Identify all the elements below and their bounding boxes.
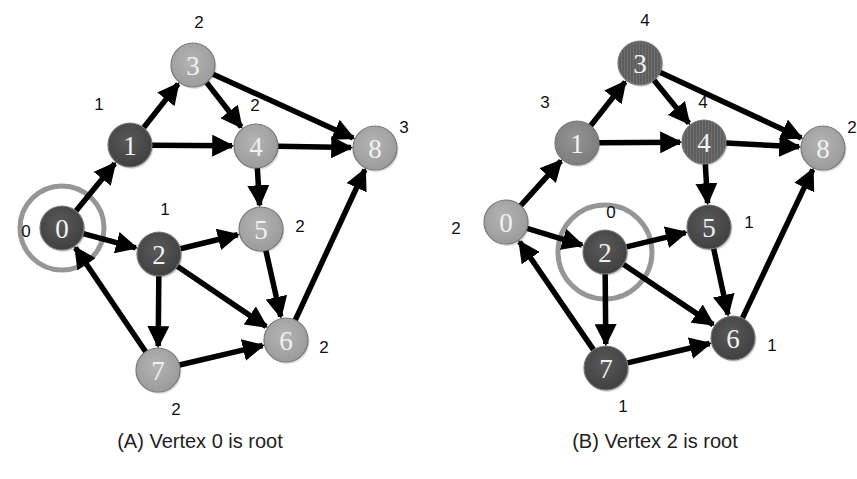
vertex-id-label: 8 xyxy=(368,134,382,164)
vertex-id-label: 2 xyxy=(152,240,166,270)
vertex-id-label: 8 xyxy=(816,134,830,164)
vertex-5: 5 xyxy=(687,205,733,251)
vertex-id-label: 7 xyxy=(599,354,613,384)
vertex-2: 2 xyxy=(583,230,629,276)
edge-7-to-6 xyxy=(179,345,262,365)
graph-caption: (A) Vertex 0 is root xyxy=(117,430,283,452)
edge-3-to-4 xyxy=(207,82,242,127)
vertex-8: 8 xyxy=(353,126,399,172)
depth-label: 2 xyxy=(319,338,328,357)
edge-2-to-6 xyxy=(177,266,266,326)
vertex-id-label: 5 xyxy=(254,215,268,245)
depth-label: 1 xyxy=(744,213,753,232)
vertex-4: 4 xyxy=(682,120,728,166)
edge-5-to-6 xyxy=(714,249,728,315)
vertex-id-label: 3 xyxy=(633,49,647,79)
depth-label: 2 xyxy=(250,96,259,115)
vertex-5: 5 xyxy=(239,207,285,253)
edge-4-to-8 xyxy=(278,146,351,147)
edge-4-to-5 xyxy=(705,164,707,203)
edge-6-to-8 xyxy=(295,170,365,320)
vertex-6: 6 xyxy=(264,318,310,364)
edge-7-to-6 xyxy=(627,344,709,363)
depth-label: 1 xyxy=(160,200,169,219)
vertex-1: 1 xyxy=(555,121,601,167)
edge-3-to-8 xyxy=(213,74,353,138)
graph-vertex-2-root: 021320344451617182(B) Vertex 2 is root xyxy=(451,11,856,453)
depth-label: 4 xyxy=(640,11,649,30)
vertex-3: 3 xyxy=(618,41,664,87)
edge-0-to-2 xyxy=(527,228,582,245)
edge-4-to-8 xyxy=(726,143,799,147)
depth-label: 1 xyxy=(767,336,776,355)
depth-label: 2 xyxy=(194,13,203,32)
edge-2-to-7 xyxy=(605,274,606,344)
vertex-id-label: 6 xyxy=(726,324,740,354)
edge-1-to-4 xyxy=(152,145,232,146)
vertex-id-label: 4 xyxy=(249,132,263,162)
vertex-1: 1 xyxy=(108,123,154,169)
depth-label: 0 xyxy=(21,222,30,241)
edge-3-to-8 xyxy=(660,72,801,138)
edge-7-to-0 xyxy=(75,248,145,352)
depth-label: 3 xyxy=(540,93,549,112)
depth-label: 2 xyxy=(295,217,304,236)
vertex-3: 3 xyxy=(171,43,217,89)
edge-3-to-4 xyxy=(654,80,689,123)
vertex-id-label: 4 xyxy=(697,128,711,158)
depth-label: 1 xyxy=(618,397,627,416)
vertex-4: 4 xyxy=(234,124,280,170)
depth-label: 1 xyxy=(94,95,103,114)
vertex-id-label: 2 xyxy=(598,238,612,268)
vertex-id-label: 1 xyxy=(570,129,584,159)
depth-label: 4 xyxy=(698,93,707,112)
edge-6-to-8 xyxy=(742,170,812,318)
edge-0-to-1 xyxy=(521,161,561,206)
edge-2-to-6 xyxy=(623,264,713,324)
graph-caption: (B) Vertex 2 is root xyxy=(572,430,738,452)
vertex-2: 2 xyxy=(137,232,183,278)
edge-0-to-2 xyxy=(83,234,136,248)
edge-1-to-4 xyxy=(599,142,680,143)
vertex-id-label: 6 xyxy=(279,326,293,356)
depth-label: 0 xyxy=(606,203,615,222)
graph-vertex-0-root: 001121324252627283(A) Vertex 0 is root xyxy=(20,13,409,453)
vertex-id-label: 0 xyxy=(499,208,513,238)
edge-4-to-5 xyxy=(257,168,259,205)
vertex-id-label: 5 xyxy=(702,213,716,243)
depth-label: 2 xyxy=(847,118,856,137)
edge-1-to-3 xyxy=(591,82,626,126)
vertex-id-label: 3 xyxy=(186,51,200,81)
edge-2-to-7 xyxy=(158,276,159,346)
bfs-diagram: 001121324252627283(A) Vertex 0 is root 0… xyxy=(0,0,857,479)
vertex-8: 8 xyxy=(801,126,847,172)
vertex-7: 7 xyxy=(136,348,182,394)
depth-label: 2 xyxy=(171,400,180,419)
edge-5-to-6 xyxy=(266,250,281,316)
depth-label: 3 xyxy=(399,118,408,137)
vertex-0: 0 xyxy=(484,200,530,246)
vertex-id-label: 0 xyxy=(55,214,69,244)
depth-label: 2 xyxy=(451,219,460,238)
vertex-id-label: 1 xyxy=(123,131,137,161)
vertex-6: 6 xyxy=(711,316,757,362)
vertex-0: 0 xyxy=(40,206,86,252)
edge-1-to-3 xyxy=(144,84,179,128)
vertex-id-label: 7 xyxy=(151,356,165,386)
edge-2-to-5 xyxy=(180,235,237,249)
vertex-7: 7 xyxy=(584,346,630,392)
edge-2-to-5 xyxy=(626,233,685,247)
